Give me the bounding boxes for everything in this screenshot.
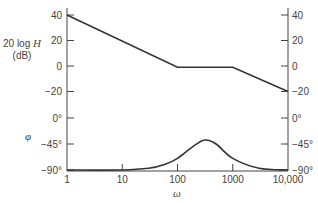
y-tick-label: −90° (41, 165, 62, 176)
magnitude-axis-title: 20 log H (3, 37, 42, 49)
y-tick-label: −45° (41, 139, 62, 150)
y-tick-label: −20 (45, 86, 62, 97)
y-tick-label: 40 (292, 10, 304, 21)
y-tick-label: 20 (292, 35, 304, 46)
y-tick-label: 40 (51, 10, 63, 21)
bode-plot: 4040202000−20−200°0°−45°−45°−90°−90°1101… (0, 0, 318, 203)
y-tick-label: 0 (56, 61, 62, 72)
y-tick-label: 0 (292, 61, 298, 72)
x-tick-label: 1000 (222, 174, 245, 185)
y-tick-label: 0° (52, 113, 62, 124)
x-axis-title: ω (173, 187, 181, 199)
y-tick-label: 0° (292, 113, 302, 124)
magnitude-axis-unit: (dB) (13, 50, 32, 61)
x-tick-label: 10,000 (273, 174, 304, 185)
y-tick-label: −20 (292, 86, 309, 97)
y-tick-label: −45° (292, 139, 313, 150)
phase-axis-title: φ (25, 130, 31, 142)
x-tick-label: 100 (169, 174, 186, 185)
y-tick-label: 20 (51, 35, 63, 46)
x-tick-label: 10 (117, 174, 129, 185)
x-tick-label: 1 (64, 174, 70, 185)
magnitude-curve (67, 15, 288, 92)
tick-marks (67, 15, 288, 171)
